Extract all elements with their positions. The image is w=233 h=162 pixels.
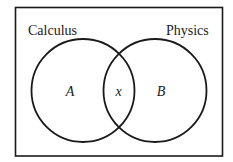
calculus-set-label: Calculus	[28, 23, 77, 38]
region-a-label: A	[65, 84, 75, 99]
intersection-x-label: x	[114, 84, 122, 99]
venn-diagram: Calculus Physics A x B	[0, 0, 233, 162]
physics-set-label: Physics	[166, 23, 209, 38]
region-b-label: B	[157, 84, 166, 99]
